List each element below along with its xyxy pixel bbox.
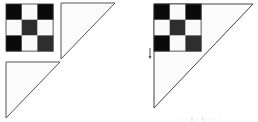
checker-cell-white	[170, 35, 186, 51]
checker-cell-dark-gray	[170, 20, 186, 36]
checker-cell-white	[37, 20, 53, 36]
checker-cell-black	[154, 4, 170, 20]
half-square-triangle-top	[61, 3, 115, 59]
down-arrow-icon	[149, 48, 152, 59]
checker-cell-dark-gray	[22, 20, 38, 36]
quilt-diagram	[0, 0, 258, 122]
checker-cell-white	[6, 20, 22, 36]
checker-cell-white	[154, 20, 170, 36]
checker-cell-white	[22, 4, 38, 20]
checker-cell-white	[22, 35, 38, 51]
figure-caption: · · l · l · · ·	[180, 116, 221, 122]
checker-cell-black	[37, 4, 53, 20]
half-square-triangle-bottom	[6, 62, 60, 118]
nine-patch-checkerboard	[6, 4, 53, 51]
checker-cell-dark-gray	[185, 35, 201, 51]
checker-cell-black	[6, 4, 22, 20]
assembled-group	[149, 4, 254, 108]
pieces-group	[6, 3, 115, 118]
checker-cell-white	[170, 4, 186, 20]
checker-cell-black	[185, 4, 201, 20]
checker-cell-black	[154, 35, 170, 51]
assembled-checkerboard	[154, 4, 201, 51]
checker-cell-white	[185, 20, 201, 36]
checker-cell-black	[6, 35, 22, 51]
checker-cell-dark-gray	[37, 35, 53, 51]
